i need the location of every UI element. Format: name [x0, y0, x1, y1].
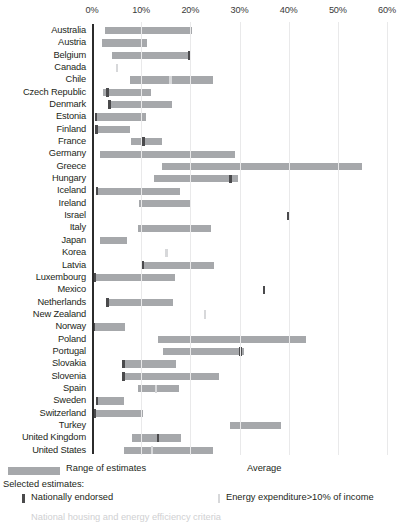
range-bar: [141, 262, 214, 269]
chart-row: Australia: [0, 24, 405, 37]
nationally-endorsed-marker: [93, 273, 96, 282]
gridline: [387, 22, 388, 455]
country-label-latvia: Latvia: [0, 259, 86, 272]
country-label-switzerland: Switzerland: [0, 407, 86, 420]
range-bar: [94, 274, 175, 281]
range-bar: [163, 348, 244, 355]
chart-row: Slovenia: [0, 370, 405, 383]
nationally-endorsed-marker: [95, 125, 98, 134]
legend-selected-estimates-title: Selected estimates:: [3, 479, 84, 489]
chart-row: United Kingdom: [0, 431, 405, 444]
country-label-sweden: Sweden: [0, 394, 86, 407]
country-label-estonia: Estonia: [0, 110, 86, 123]
x-tick-label: 40%: [280, 5, 298, 15]
x-axis: 0%10%20%30%40%50%60%: [0, 0, 405, 22]
gridline: [289, 22, 290, 455]
chart-row: Finland: [0, 123, 405, 136]
x-tick-label: 60%: [378, 5, 396, 15]
chart-row: Portugal: [0, 345, 405, 358]
legend-range-label: Range of estimates: [66, 463, 146, 473]
gridline: [338, 22, 339, 455]
chart-row: Denmark: [0, 98, 405, 111]
legend-energy-expenditure-label: Energy expenditure>10% of income: [226, 492, 374, 502]
chart-row: New Zealand: [0, 308, 405, 321]
x-tick-label: 30%: [231, 5, 249, 15]
x-tick-label: 20%: [181, 5, 199, 15]
legend-energy-expenditure-swatch: [218, 494, 220, 503]
chart-row: Luxembourg: [0, 271, 405, 284]
chart-row: Ireland: [0, 197, 405, 210]
chart-row: Canada: [0, 61, 405, 74]
chart-row: Greece: [0, 160, 405, 173]
range-bar: [100, 151, 235, 158]
range-bar: [93, 323, 125, 330]
x-tick-label: 10%: [132, 5, 150, 15]
range-bar: [139, 200, 190, 207]
chart-row: Austria: [0, 36, 405, 49]
energy-expenditure-marker: [116, 64, 118, 72]
country-label-portugal: Portugal: [0, 345, 86, 358]
nationally-endorsed-marker: [108, 100, 111, 109]
country-label-chile: Chile: [0, 73, 86, 86]
chart-row: Hungary: [0, 172, 405, 185]
country-label-mexico: Mexico: [0, 283, 86, 296]
range-bar: [158, 336, 306, 343]
country-label-czech-republic: Czech Republic: [0, 86, 86, 99]
country-label-netherlands: Netherlands: [0, 296, 86, 309]
chart-row: Korea: [0, 246, 405, 259]
country-label-italy: Italy: [0, 221, 86, 234]
chart-row: Czech Republic: [0, 86, 405, 99]
zero-axis-line: [92, 24, 94, 454]
country-label-israel: Israel: [0, 209, 86, 222]
legend-nationally-endorsed-label: Nationally endorsed: [31, 492, 113, 502]
nationally-endorsed-marker: [96, 397, 99, 406]
country-label-australia: Australia: [0, 24, 86, 37]
range-bar: [162, 163, 362, 170]
nationally-endorsed-marker: [122, 360, 125, 369]
chart-row: Belgium: [0, 49, 405, 62]
chart-row: Slovakia: [0, 357, 405, 370]
range-bar: [138, 225, 211, 232]
country-label-japan: Japan: [0, 234, 86, 247]
gridline: [141, 22, 142, 455]
chart-row: Israel: [0, 209, 405, 222]
country-label-turkey: Turkey: [0, 419, 86, 432]
range-bar: [124, 447, 213, 454]
country-label-norway: Norway: [0, 320, 86, 333]
country-label-finland: Finland: [0, 123, 86, 136]
range-bar: [103, 89, 151, 96]
chart-row: Estonia: [0, 110, 405, 123]
nationally-endorsed-marker: [142, 137, 145, 146]
chart-plot-area: AustraliaAustriaBelgiumCanadaChileCzech …: [0, 24, 405, 456]
nationally-endorsed-marker: [122, 372, 125, 381]
chart-row: United States: [0, 444, 405, 457]
chart-row: Switzerland: [0, 407, 405, 420]
chart-row: Mexico: [0, 283, 405, 296]
country-label-hungary: Hungary: [0, 172, 86, 185]
chart-row: Chile: [0, 73, 405, 86]
country-label-new-zealand: New Zealand: [0, 308, 86, 321]
range-bar: [112, 52, 191, 59]
country-label-korea: Korea: [0, 246, 86, 259]
chart-row: Sweden: [0, 394, 405, 407]
country-label-greece: Greece: [0, 160, 86, 173]
country-label-austria: Austria: [0, 36, 86, 49]
country-label-belgium: Belgium: [0, 49, 86, 62]
range-bar: [93, 410, 143, 417]
country-label-luxembourg: Luxembourg: [0, 271, 86, 284]
nationally-endorsed-marker: [142, 261, 145, 270]
range-bar: [95, 113, 146, 120]
range-bar: [154, 175, 238, 182]
x-tick-label: 50%: [329, 5, 347, 15]
nationally-endorsed-marker: [263, 286, 266, 295]
country-label-slovenia: Slovenia: [0, 370, 86, 383]
chart-row: Netherlands: [0, 296, 405, 309]
range-bar: [96, 397, 124, 404]
legend-clipped-row-label: National housing and energy efficiency c…: [31, 512, 221, 522]
range-bar: [95, 126, 130, 133]
range-bar: [230, 422, 281, 429]
chart-row: Germany: [0, 147, 405, 160]
range-bar: [138, 385, 178, 392]
nationally-endorsed-marker: [93, 409, 96, 418]
